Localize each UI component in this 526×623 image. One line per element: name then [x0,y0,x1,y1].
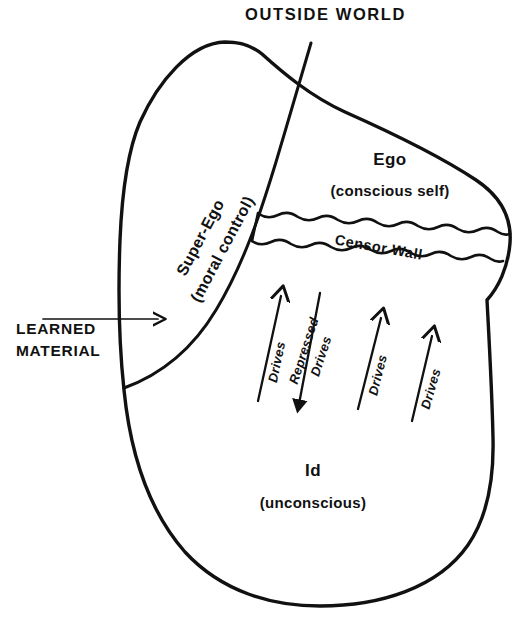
censor-wall-label: Censor Wall [334,231,424,262]
drive-label-3-group: Drives [365,353,390,397]
drive-label-4-group: Drives [418,367,444,411]
learned-material-line1: LEARNED [16,320,96,337]
drive-label-1: Drives [265,340,288,384]
drive-label-4: Drives [418,367,444,411]
outside-world-title: OUTSIDE WORLD [245,5,406,23]
learned-material-line2: MATERIAL [16,342,101,359]
censor-wall-top-edge [259,213,510,235]
ego-label: Ego [373,150,406,169]
psyche-diagram: OUTSIDE WORLD Super-Ego (moral control) … [0,0,526,623]
repressed-drives-label-group: Repressed Drives [286,315,339,392]
id-sublabel: (unconscious) [260,494,366,511]
censor-wall-left-cap [252,213,258,241]
censor-wall-label-group: Censor Wall [334,231,424,262]
super-ego-label-group: Super-Ego (moral control) [165,182,257,305]
ego-sublabel: (conscious self) [331,182,450,199]
drive-label-1-group: Drives [265,340,288,384]
diagram-canvas: OUTSIDE WORLD Super-Ego (moral control) … [0,0,526,623]
drive-label-3: Drives [365,353,390,397]
id-label: Id [305,461,321,480]
